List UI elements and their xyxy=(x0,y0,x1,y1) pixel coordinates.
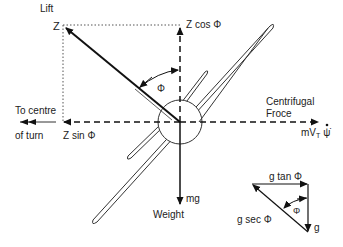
z-sin-phi-label: Z sin Φ xyxy=(63,131,95,141)
froce-label: Froce xyxy=(266,109,292,119)
g-sec-phi-label: g sec Φ xyxy=(237,215,272,225)
z-label: Z xyxy=(53,21,60,32)
g-label: g xyxy=(314,223,320,233)
weight-label: Weight xyxy=(153,210,184,220)
lift-vector-arrow xyxy=(66,28,180,122)
z-cos-phi-label: Z cos Φ xyxy=(186,20,221,30)
t-subscript: T xyxy=(316,132,320,139)
m-v-text: mV xyxy=(301,127,316,138)
lift-label: Lift xyxy=(40,4,53,14)
m-vt-psi-label: mVTψ̇ xyxy=(301,128,330,139)
centrifugal-label: Centrifugal xyxy=(266,97,314,107)
of-turn-label: of turn xyxy=(15,131,43,141)
mg-label: mg xyxy=(186,194,200,204)
g-tan-phi-label: g tan Φ xyxy=(269,172,302,182)
psi-dot-text: ψ̇ xyxy=(323,127,330,138)
phi-small-label: Φ xyxy=(293,207,300,216)
to-centre-label: To centre xyxy=(15,106,56,116)
phi-main-label: Φ xyxy=(157,84,165,94)
